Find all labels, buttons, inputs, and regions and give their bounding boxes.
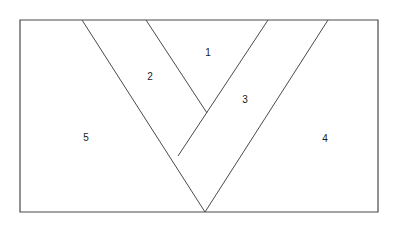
figure-canvas — [0, 0, 398, 226]
region-label-3: 3 — [242, 95, 248, 105]
region-label-5: 5 — [83, 133, 89, 143]
region-label-1: 1 — [205, 48, 211, 58]
region-label-2: 2 — [147, 72, 153, 82]
figure-background — [0, 0, 398, 226]
region-label-4: 4 — [322, 134, 328, 144]
geometry-figure: 1 2 3 4 5 — [0, 0, 398, 226]
